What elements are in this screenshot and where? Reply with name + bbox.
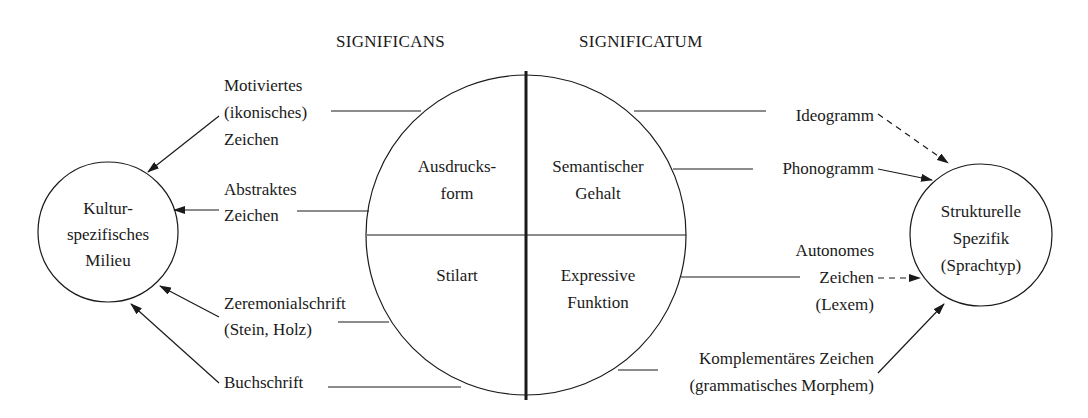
abstraktes-line1: Abstraktes bbox=[224, 180, 297, 199]
header-significans: SIGNIFICANS bbox=[336, 32, 445, 51]
milieu-line3: Milieu bbox=[85, 251, 131, 270]
motiviertes-line3: Zeichen bbox=[224, 130, 279, 149]
quadrant-ausdrucksform-line1: Ausdrucks- bbox=[418, 157, 497, 176]
header-significatum: SIGNIFICATUM bbox=[579, 32, 703, 51]
kulturspezifisches-milieu-node: Kultur- spezifisches Milieu bbox=[38, 162, 178, 302]
quadrant-semantischer-gehalt-line1: Semantischer bbox=[552, 157, 644, 176]
buchschrift-line1: Buchschrift bbox=[224, 373, 304, 392]
zeremonial-line1: Zeremonialschrift bbox=[224, 294, 346, 313]
spezifik-line3: (Sprachtyp) bbox=[941, 256, 1021, 275]
label-abstraktes-zeichen: Abstraktes Zeichen bbox=[174, 180, 369, 225]
label-zeremonialschrift: Zeremonialschrift (Stein, Holz) bbox=[160, 286, 389, 339]
label-komplementaeres-zeichen: Komplementäres Zeichen (grammatisches Mo… bbox=[618, 304, 944, 395]
spezifik-line2: Spezifik bbox=[953, 229, 1010, 248]
label-ideogramm: Ideogramm bbox=[634, 106, 948, 163]
label-autonomes-zeichen: Autonomes Zeichen (Lexem) bbox=[681, 241, 920, 314]
komplementaer-line2: (grammatisches Morphem) bbox=[689, 376, 874, 395]
label-phonogramm: Phonogramm bbox=[673, 159, 932, 180]
label-motiviertes-zeichen: Motiviertes (ikonisches) Zeichen bbox=[148, 76, 421, 172]
zeremonial-line2: (Stein, Holz) bbox=[224, 320, 312, 339]
autonomes-line2: Zeichen bbox=[819, 268, 874, 287]
milieu-line2: spezifisches bbox=[67, 225, 149, 244]
motiviertes-line1: Motiviertes bbox=[224, 76, 302, 95]
milieu-line1: Kultur- bbox=[83, 199, 133, 218]
autonomes-line1: Autonomes bbox=[796, 241, 874, 260]
strukturelle-spezifik-node: Strukturelle Spezifik (Sprachtyp) bbox=[910, 164, 1052, 306]
central-sign-circle: Ausdrucks- form Semantischer Gehalt Stil… bbox=[366, 71, 686, 400]
autonomes-line3: (Lexem) bbox=[815, 295, 874, 314]
spezifik-line1: Strukturelle bbox=[941, 202, 1021, 221]
quadrant-expressive-funktion-line2: Funktion bbox=[567, 293, 629, 312]
quadrant-expressive-funktion-line1: Expressive bbox=[561, 266, 636, 285]
phonogramm-line1: Phonogramm bbox=[782, 159, 874, 178]
abstraktes-line2: Zeichen bbox=[224, 206, 279, 225]
komplementaer-line1: Komplementäres Zeichen bbox=[699, 349, 875, 368]
quadrant-ausdrucksform-line2: form bbox=[440, 184, 473, 203]
motiviertes-line2: (ikonisches) bbox=[224, 103, 307, 122]
ideogramm-line1: Ideogramm bbox=[796, 106, 874, 125]
label-buchschrift: Buchschrift bbox=[131, 304, 461, 392]
sign-diagram: SIGNIFICANS SIGNIFICATUM Ausdrucks- form… bbox=[0, 0, 1088, 418]
quadrant-semantischer-gehalt-line2: Gehalt bbox=[575, 184, 621, 203]
quadrant-stilart: Stilart bbox=[436, 266, 478, 285]
